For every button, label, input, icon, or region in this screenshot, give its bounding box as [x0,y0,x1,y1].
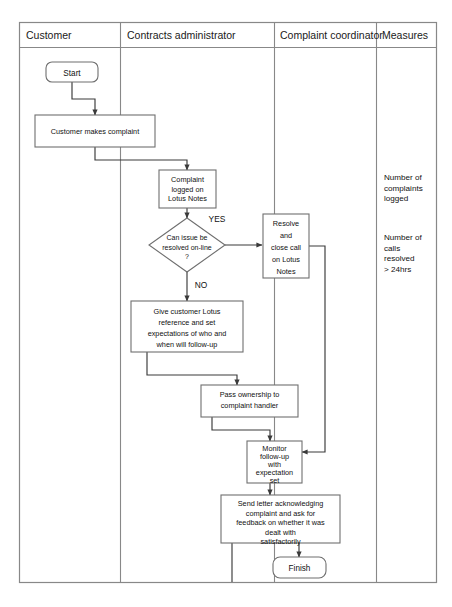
pass-ownership-line-2: complaint handler [221,401,279,410]
measure-2-line-3: resolved [384,254,415,263]
give-reference-line-4: when will follow-up [156,340,218,349]
lane-header-contracts-administrator: Contracts administrator [127,29,236,41]
lane-headers: Customer Contracts administrator Complai… [26,29,428,41]
node-can-issue-be-resolved[interactable]: Can issue be resolved on-line ? [149,218,225,272]
measure-1-line-2: complaints [384,184,423,193]
node-customer-makes-complaint[interactable]: Customer makes complaint [35,115,155,147]
complaint-logged-line-3: Lotus Notes [168,194,207,203]
lane-header-measures: Measures [382,29,428,41]
node-complaint-logged[interactable]: Complaint logged on Lotus Notes [159,170,216,208]
complaint-logged-line-1: Complaint [171,175,204,184]
measure-2-line-2: calls [384,244,400,253]
measure-1-line-3: logged [384,194,408,203]
resolve-line-1: Resolve [273,219,299,228]
pass-ownership-line-1: Pass ownership to [220,390,280,399]
flowchart-root: Customer Contracts administrator Complai… [0,0,452,607]
resolve-line-5: Notes [276,267,295,276]
connector-customer-complaint-to-complaint-logged [95,147,187,170]
customer-makes-complaint-label: Customer makes complaint [51,127,139,136]
node-start[interactable]: Start [46,62,98,82]
measure-2-line-1: Number of [384,233,423,242]
resolve-line-2: and [280,231,292,240]
resolve-line-4: on Lotus [272,255,300,264]
connector-start-to-customer-complaint [72,81,95,115]
finish-label: Finish [289,564,311,573]
send-letter-line-1: Send letter acknowledging [238,499,324,508]
branch-label-yes: YES [209,214,226,224]
measure-1-line-1: Number of [384,173,423,182]
give-reference-line-1: Give customer Lotus [154,307,221,316]
node-pass-ownership[interactable]: Pass ownership to complaint handler [201,385,298,417]
node-give-customer-reference[interactable]: Give customer Lotus reference and set ex… [131,301,243,352]
send-letter-line-4: dealt with [265,528,296,537]
complaint-logged-line-2: logged on [171,185,203,194]
can-issue-be-resolved-line-2: resolved on-line [162,244,212,251]
resolve-line-3: close call [271,243,301,252]
start-label: Start [63,69,81,78]
monitor-line-5: set [270,476,280,485]
can-issue-be-resolved-line-3: ? [185,253,189,260]
give-reference-line-2: reference and set [159,318,216,327]
send-letter-line-5: satisfactorily [260,537,300,546]
node-send-letter[interactable]: Send letter acknowledging complaint and … [221,495,340,546]
measures-column: Number of complaints logged Number of ca… [384,173,423,274]
lane-header-complaint-coordinator: Complaint coordinator [280,29,383,41]
branch-label-no: NO [195,280,208,290]
connector-pass-ownership-to-monitor [212,417,270,441]
node-finish[interactable]: Finish [273,557,326,578]
send-letter-line-2: complaint and ask for [246,509,316,518]
give-reference-line-3: expectations of who and [148,329,227,338]
connector-give-reference-to-pass-ownership [147,352,237,385]
node-monitor-follow-up[interactable]: Monitor follow-up with expectation set [247,441,302,485]
can-issue-be-resolved-line-1: Can issue be [167,234,208,241]
node-resolve-and-close-call[interactable]: Resolve and close call on Lotus Notes [263,214,309,278]
send-letter-line-3: feedback on whether it was [236,518,325,527]
measure-2-line-4: > 24hrs [384,265,411,274]
swimlane-flowchart-canvas: Customer Contracts administrator Complai… [0,0,452,607]
lane-header-customer: Customer [26,29,72,41]
